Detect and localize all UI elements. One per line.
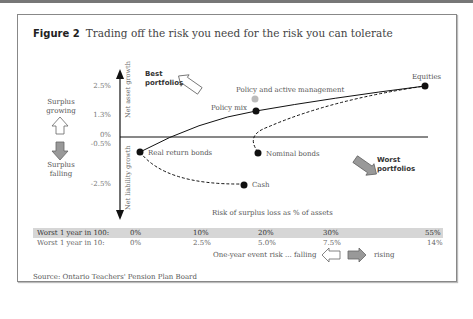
cell: 14%	[427, 239, 443, 247]
rising-label: rising	[374, 251, 394, 259]
label-real-return-bonds: Real return bonds	[148, 149, 212, 157]
y-label-top: Net asset growth	[124, 61, 132, 118]
table-row: Worst 1 year in 10: 0% 2.5% 5.0% 7.5% 14…	[33, 238, 443, 248]
point-policy-mix	[253, 108, 260, 115]
cell: 30%	[323, 229, 339, 237]
best-portfolios-label: Best portfolios	[145, 70, 179, 88]
label-nominal-bonds: Nominal bonds	[266, 150, 320, 158]
point-equities	[422, 83, 429, 90]
label-policy-active: Policy and active management	[236, 86, 344, 94]
x-axis-label: Risk of surplus loss as % of assets	[212, 209, 333, 217]
point-policy-active	[252, 96, 259, 103]
axis-down-arrow-icon	[116, 210, 124, 220]
cell: 7.5%	[323, 239, 341, 247]
label-cash: Cash	[252, 181, 270, 189]
cell: 5.0%	[258, 239, 276, 247]
surplus-falling-label: Surplus falling	[46, 161, 76, 179]
cell: 20%	[258, 229, 274, 237]
ytick: -2.5%	[71, 180, 111, 188]
cell: 10%	[193, 229, 209, 237]
point-nominal-bonds	[255, 150, 262, 157]
cell: 0%	[130, 229, 141, 237]
surplus-growing-label: Surplus growing	[46, 98, 76, 116]
cell: 0%	[130, 239, 141, 247]
event-risk-label: One-year event risk ... falling	[213, 251, 316, 259]
rising-arrow-icon	[348, 248, 366, 262]
row-label: Worst 1 year in 100:	[37, 229, 109, 237]
point-cash	[241, 182, 248, 189]
ytick: -0.5%	[71, 140, 111, 148]
label-equities: Equities	[412, 73, 441, 81]
ytick: 0%	[71, 131, 111, 139]
y-label-bottom: Net liability growth	[124, 145, 132, 210]
surplus-up-arrow-icon	[52, 117, 68, 134]
source-note: Source: Ontario Teachers' Pension Plan B…	[33, 273, 197, 281]
cell: 2.5%	[193, 239, 211, 247]
surplus-down-arrow-icon	[52, 142, 68, 160]
axis-up-arrow-icon	[116, 69, 124, 79]
worst-portfolios-label: Worst portfolios	[377, 156, 411, 174]
row-label: Worst 1 year in 10:	[37, 239, 105, 247]
label-policy-mix: Policy mix	[211, 104, 247, 112]
falling-arrow-icon	[322, 248, 340, 262]
cell: 55%	[425, 229, 441, 237]
ytick: 2.5%	[71, 82, 111, 90]
table-row: Worst 1 year in 100: 0% 10% 20% 30% 55%	[33, 228, 443, 238]
ytick: 1.3%	[71, 111, 111, 119]
point-real-return-bonds	[137, 149, 144, 156]
